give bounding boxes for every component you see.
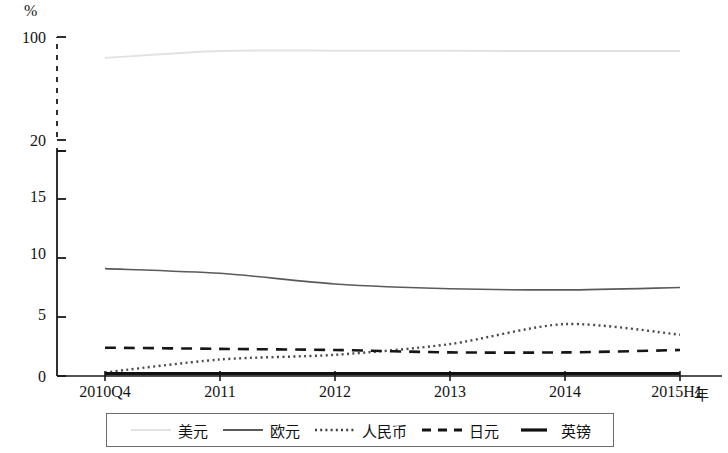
series-lines bbox=[105, 51, 680, 374]
legend-swatch-usd-icon bbox=[130, 424, 172, 436]
legend-swatch-eur-icon bbox=[222, 424, 264, 436]
legend-swatch-gbp-icon bbox=[513, 424, 555, 436]
legend-label-gbp: 英镑 bbox=[561, 420, 591, 441]
series-line-0 bbox=[105, 51, 680, 58]
legend-label-usd: 美元 bbox=[178, 420, 208, 441]
legend-label-cny: 人民币 bbox=[362, 420, 407, 441]
legend-item-usd[interactable]: 美元 bbox=[123, 420, 215, 441]
legend-swatch-jpy-icon bbox=[421, 424, 463, 436]
series-line-1 bbox=[105, 269, 680, 290]
legend-label-jpy: 日元 bbox=[469, 420, 499, 441]
plot-area bbox=[0, 0, 728, 453]
chart-container: % 100 20 15 10 5 0 2010Q4 2011 2012 2013… bbox=[0, 0, 728, 453]
legend-item-eur[interactable]: 欧元 bbox=[215, 420, 307, 441]
legend: 美元 欧元 人民币 日元 英镑 bbox=[106, 413, 614, 447]
legend-item-jpy[interactable]: 日元 bbox=[414, 420, 506, 441]
legend-swatch-cny-icon bbox=[314, 424, 356, 436]
legend-item-cny[interactable]: 人民币 bbox=[307, 420, 414, 441]
legend-item-gbp[interactable]: 英镑 bbox=[506, 420, 598, 441]
series-line-3 bbox=[105, 348, 680, 353]
legend-label-eur: 欧元 bbox=[270, 420, 300, 441]
axis-lines bbox=[57, 37, 722, 381]
